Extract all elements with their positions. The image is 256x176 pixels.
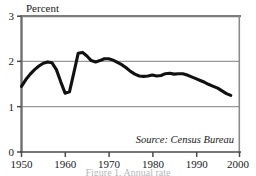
source-note: Source: Census Bureau: [136, 134, 234, 145]
line-chart-svg: 3 2 1 0 1950 1960 1970 1980 1990 2000 Pe…: [0, 0, 256, 176]
y-tick-label-2: 2: [9, 55, 15, 67]
y-tick-label-0: 0: [9, 146, 15, 158]
x-tick-label-1960: 1960: [54, 158, 77, 170]
x-tick-label-2000: 2000: [227, 158, 250, 170]
y-tick-label-3: 3: [9, 10, 15, 22]
y-axis-tick-labels: 3 2 1 0: [9, 10, 15, 158]
clipped-caption: Figure 1. Annual rate: [86, 167, 172, 176]
x-tick-label-1950: 1950: [11, 158, 34, 170]
x-tick-label-1990: 1990: [186, 158, 209, 170]
y-tick-label-1: 1: [9, 101, 15, 113]
y-axis-title: Percent: [26, 2, 59, 14]
chart-figure: 3 2 1 0 1950 1960 1970 1980 1990 2000 Pe…: [0, 0, 256, 176]
